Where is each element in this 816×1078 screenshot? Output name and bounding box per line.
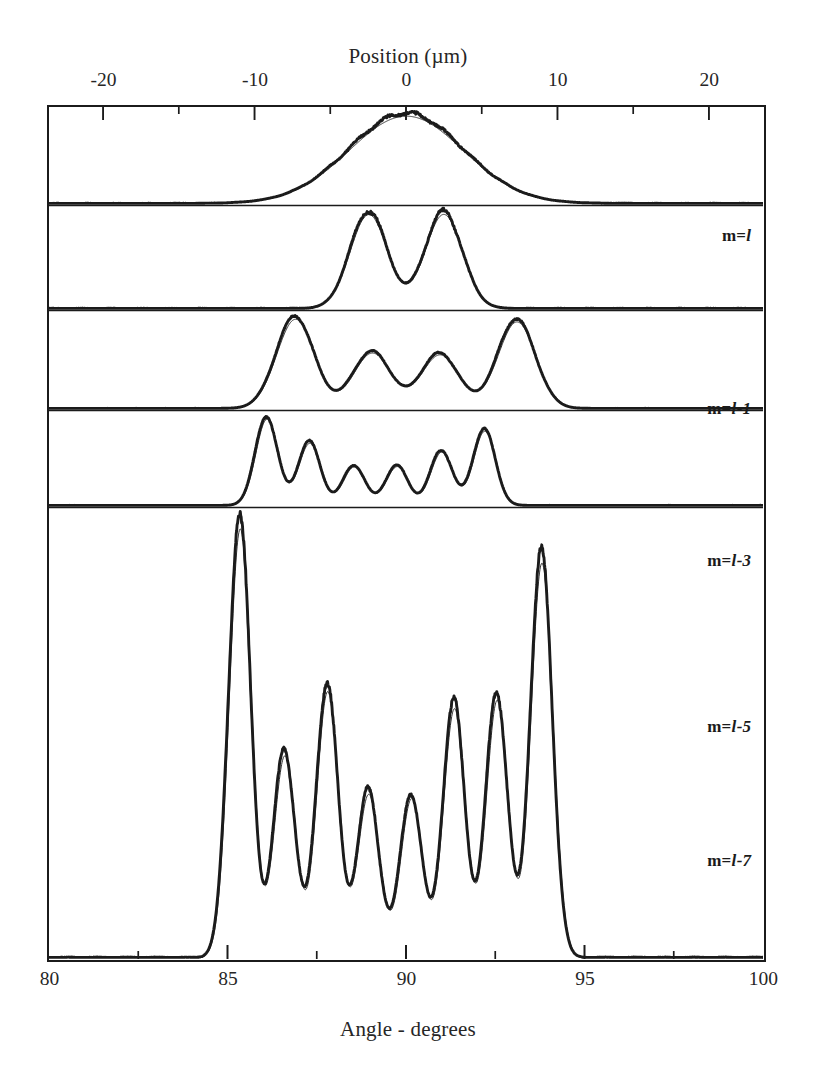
- panel-label-prefix: m=: [722, 226, 746, 245]
- panel-label-m=l-7: m=l-7: [707, 851, 751, 871]
- panel-label-suffix: -3: [737, 551, 752, 570]
- bottom-tick-label-1: 85: [218, 968, 238, 990]
- theory-curve-m=l: [49, 116, 763, 203]
- panel-label-suffix: -7: [737, 851, 752, 870]
- theory-curve-m=l-1: [49, 214, 763, 308]
- panel-label-prefix: m=: [707, 399, 731, 418]
- panel-label-m=l-3: m=l-3: [707, 551, 751, 571]
- bottom-tick-label-0: 80: [40, 968, 60, 990]
- experiment-curve-m=l-3: [49, 316, 763, 409]
- bottom-tick-label-2: 90: [397, 968, 417, 990]
- bottom-axis-tick-labels: 80859095100: [0, 968, 816, 992]
- panel-label-m=l-5: m=l-5: [707, 717, 751, 737]
- top-axis-tick-labels: -20-1001020: [0, 69, 816, 93]
- plot-frame: [47, 105, 766, 962]
- theory-curve-m=l-7: [49, 529, 763, 958]
- top-tick-label-4: 20: [700, 69, 720, 91]
- panel-label-suffix: -1: [737, 399, 752, 418]
- top-tick-label-3: 10: [548, 69, 568, 91]
- panel-label-mode-symbol: l: [746, 226, 751, 245]
- bottom-tick-label-4: 100: [749, 968, 778, 990]
- panel-label-prefix: m=: [707, 551, 731, 570]
- bottom-tick-label-3: 95: [575, 968, 595, 990]
- top-tick-label-2: 0: [402, 69, 412, 91]
- panel-label-suffix: -5: [737, 717, 752, 736]
- top-tick-label-0: -20: [90, 69, 116, 91]
- theory-curve-m=l-3: [49, 319, 763, 408]
- panel-label-prefix: m=: [707, 851, 731, 870]
- experiment-curve-m=l-5: [49, 416, 763, 505]
- panel-label-m=l-1: m=l-1: [707, 399, 751, 419]
- top-axis-title: Position (µm): [0, 44, 816, 69]
- panel-label-m=l: m=l: [722, 226, 751, 246]
- theory-curve-m=l-5: [49, 419, 763, 505]
- panel-label-prefix: m=: [707, 717, 731, 736]
- plot-canvas: [49, 107, 763, 959]
- experiment-curve-m=l-1: [49, 208, 763, 308]
- bottom-axis-title: Angle - degrees: [0, 1017, 816, 1042]
- experiment-curve-m=l: [49, 111, 763, 203]
- figure-root: Position (µm) -20-1001020 80859095100 An…: [0, 0, 816, 1078]
- top-tick-label-1: -10: [242, 69, 268, 91]
- experiment-curve-m=l-7: [49, 512, 763, 958]
